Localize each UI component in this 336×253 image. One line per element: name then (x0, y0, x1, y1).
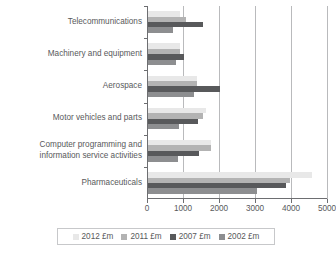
legend-label: 2002 £m (228, 232, 260, 241)
legend-label: 2012 £m (82, 232, 114, 241)
category-label: Pharmaceuticals (0, 178, 142, 189)
x-tick (219, 199, 220, 203)
x-tick-label: 2000 (210, 204, 228, 214)
legend-item[interactable]: 2002 £m (219, 232, 260, 241)
legend-label: 2011 £m (130, 232, 161, 241)
category-label: Telecommunications (0, 17, 142, 28)
x-tick-label: 1000 (174, 204, 192, 214)
legend-swatch-icon (219, 234, 225, 240)
category-label: Aerospace (0, 81, 142, 92)
x-tick-label: 0 (145, 204, 150, 214)
legend-label: 2007 £m (179, 232, 211, 241)
category-label: Machinery and equipment (0, 49, 142, 60)
chart-legend: 2012 £m2011 £m2007 £m2002 £m (57, 228, 275, 245)
x-tick-label: 5000 (318, 204, 336, 214)
x-tick (147, 199, 148, 203)
x-axis: 010002000300040005000 (147, 199, 327, 217)
y-axis-line (147, 6, 148, 199)
category-label: Motor vehicles and parts (0, 113, 142, 124)
x-tick (255, 199, 256, 203)
legend-swatch-icon (170, 234, 176, 240)
x-tick (327, 199, 328, 203)
x-tick (291, 199, 292, 203)
legend-swatch-icon (73, 234, 79, 240)
x-axis-line (147, 198, 327, 199)
legend-item[interactable]: 2007 £m (170, 232, 211, 241)
x-tick-label: 3000 (246, 204, 264, 214)
legend-swatch-icon (121, 234, 127, 240)
category-label: Computer programming and information ser… (0, 140, 142, 161)
legend-item[interactable]: 2012 £m (73, 232, 114, 241)
x-tick (183, 199, 184, 203)
legend-item[interactable]: 2011 £m (121, 232, 161, 241)
x-tick-label: 4000 (282, 204, 300, 214)
